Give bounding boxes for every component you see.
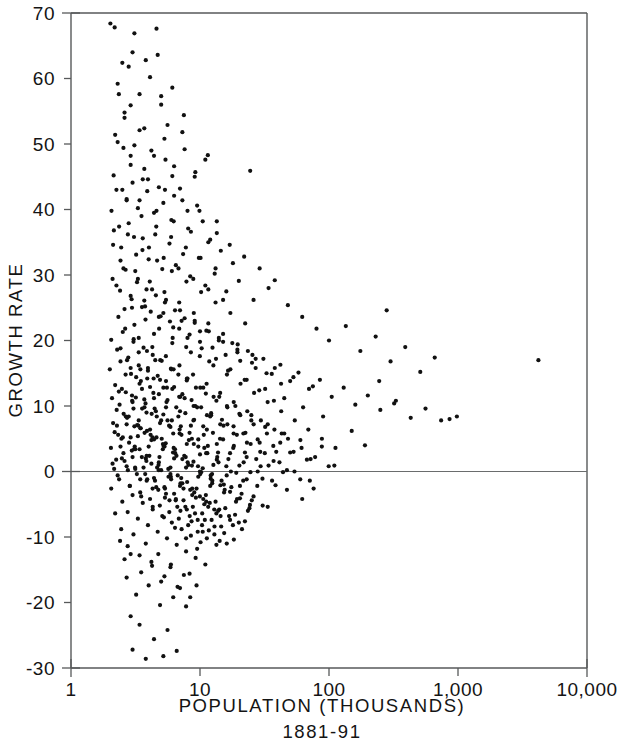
data-point [196, 445, 200, 449]
data-point [171, 325, 175, 329]
data-point [173, 308, 177, 312]
data-point [250, 353, 254, 357]
data-point [129, 614, 133, 618]
data-point [129, 435, 133, 439]
data-point [121, 146, 125, 150]
data-point [125, 576, 129, 580]
data-point [219, 524, 223, 528]
data-point [218, 437, 222, 441]
data-point [333, 446, 337, 450]
data-point [152, 154, 156, 158]
data-point [232, 538, 236, 542]
data-point [198, 256, 202, 260]
data-point [193, 170, 197, 174]
data-point [306, 427, 310, 431]
data-point [150, 564, 154, 568]
data-point [183, 411, 187, 415]
data-point [308, 479, 312, 483]
data-point [221, 298, 225, 302]
data-point [114, 283, 118, 287]
data-point [109, 209, 113, 213]
data-point [125, 422, 129, 426]
data-point [109, 486, 113, 490]
y-tick-label: 50 [33, 134, 55, 155]
y-tick-label: 20 [33, 330, 55, 351]
data-point [293, 418, 297, 422]
data-point [108, 367, 112, 371]
data-point [137, 363, 141, 367]
data-point [203, 158, 207, 162]
data-point [313, 455, 317, 459]
data-point [164, 400, 168, 404]
data-point [240, 527, 244, 531]
data-point [158, 421, 162, 425]
data-point [180, 130, 184, 134]
data-point [145, 477, 149, 481]
data-point [122, 557, 126, 561]
data-point [263, 387, 267, 391]
data-point [152, 332, 156, 336]
y-tick-label: 40 [33, 199, 55, 220]
data-point [224, 353, 228, 357]
data-point [165, 418, 169, 422]
data-point [254, 357, 258, 361]
data-point [157, 468, 161, 472]
data-point [172, 492, 176, 496]
data-point [185, 376, 189, 380]
x-tick-label: 10,000 [556, 679, 617, 700]
data-point [221, 340, 225, 344]
data-point [116, 473, 120, 477]
data-point [225, 404, 229, 408]
data-point [189, 350, 193, 354]
data-point [129, 552, 133, 556]
data-point [191, 372, 195, 376]
data-point [141, 236, 145, 240]
data-point [219, 249, 223, 253]
data-point [358, 349, 362, 353]
data-point [248, 169, 252, 173]
data-point [138, 490, 142, 494]
data-point [265, 431, 269, 435]
data-point [273, 366, 277, 370]
data-point [138, 367, 142, 371]
data-point [233, 404, 237, 408]
data-point [238, 484, 242, 488]
data-point [266, 400, 270, 404]
data-point [120, 188, 124, 192]
data-point [215, 455, 219, 459]
data-point [258, 441, 262, 445]
data-point [113, 25, 117, 29]
data-point [164, 405, 168, 409]
data-point [243, 450, 247, 454]
data-point [163, 158, 167, 162]
data-point [185, 209, 189, 213]
data-point [447, 417, 451, 421]
data-point [149, 148, 153, 152]
data-point [206, 287, 210, 291]
data-point [141, 346, 145, 350]
data-point [148, 279, 152, 283]
data-point [298, 438, 302, 442]
data-point [127, 65, 131, 69]
data-point [150, 412, 154, 416]
data-point [174, 405, 178, 409]
data-point [156, 374, 160, 378]
data-point [231, 446, 235, 450]
data-point [138, 477, 142, 481]
data-point [257, 388, 261, 392]
data-point [232, 400, 236, 404]
data-point [146, 177, 150, 181]
data-point [178, 509, 182, 513]
data-point [129, 103, 133, 107]
data-point [118, 258, 122, 262]
data-point [154, 409, 158, 413]
data-point [353, 403, 357, 407]
data-point [377, 379, 381, 383]
data-point [156, 552, 160, 556]
data-point [133, 467, 137, 471]
data-point [252, 391, 256, 395]
data-point [118, 346, 122, 350]
data-point [218, 391, 222, 395]
data-point [129, 154, 133, 158]
x-axis-label: POPULATION (THOUSANDS) [179, 695, 466, 716]
